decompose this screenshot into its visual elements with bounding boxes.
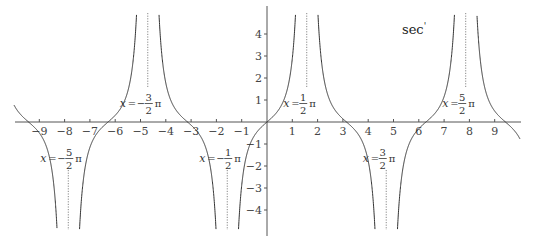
label-pi: π [234, 153, 241, 164]
curve-segment [14, 105, 57, 228]
label-pi: π [155, 98, 162, 109]
label-denominator: 2 [300, 105, 306, 116]
asymptote-label: x=12π [283, 92, 316, 116]
label-denominator: 2 [66, 160, 72, 171]
x-tick-label: 2 [314, 125, 321, 138]
x-tick-label: −6 [107, 125, 123, 138]
label-lhs: x [40, 152, 47, 165]
x-tick-label: −5 [132, 125, 148, 138]
x-tick-label: 7 [441, 125, 448, 138]
label-numerator: 5 [459, 92, 465, 103]
label-lhs: x [120, 97, 127, 110]
sec-derivative-chart: −9−8−7−6−5−4−3−2−1123456789−4−3−2−11234 … [0, 0, 534, 240]
label-pi: π [75, 153, 82, 164]
label-equals: = [128, 98, 136, 109]
label-numerator: 3 [146, 92, 152, 103]
label-equals: = [450, 98, 458, 109]
x-tick-label: 5 [390, 125, 397, 138]
x-tick-label: 3 [339, 125, 346, 138]
x-tick-label: −4 [158, 125, 174, 138]
label-equals: = [207, 153, 215, 164]
label-denominator: 2 [146, 105, 152, 116]
y-tick-label: 2 [255, 72, 262, 85]
label-pi: π [389, 153, 396, 164]
x-tick-label: 9 [491, 125, 498, 138]
chart-title: sec' [402, 21, 426, 37]
label-denominator: 2 [459, 105, 465, 116]
asymptote-label: x=−12π [199, 147, 241, 171]
label-sign: − [137, 98, 145, 109]
x-tick-label: 1 [289, 125, 296, 138]
label-lhs: x [199, 152, 206, 165]
label-sign: − [216, 153, 224, 164]
label-denominator: 2 [225, 160, 231, 171]
x-tick-label: 8 [466, 125, 473, 138]
y-tick-label: 1 [255, 94, 262, 107]
label-equals: = [371, 153, 379, 164]
asymptote-label: x=−52π [40, 147, 82, 171]
asymptote-label: x=52π [442, 92, 475, 116]
label-sign: − [57, 153, 65, 164]
y-tick-label: 4 [255, 28, 262, 41]
y-tick-label: −2 [246, 160, 262, 173]
x-tick-label: 4 [365, 125, 372, 138]
y-tick-label: 3 [255, 50, 262, 63]
label-lhs: x [363, 152, 370, 165]
x-tick-label: −8 [56, 125, 72, 138]
label-numerator: 1 [225, 147, 231, 158]
label-denominator: 2 [380, 160, 386, 171]
label-lhs: x [442, 97, 449, 110]
y-tick-label: −3 [246, 182, 262, 195]
label-equals: = [48, 153, 56, 164]
label-numerator: 3 [380, 147, 386, 158]
label-numerator: 5 [66, 147, 72, 158]
label-pi: π [468, 98, 475, 109]
y-tick-label: −4 [246, 204, 262, 217]
label-numerator: 1 [300, 92, 306, 103]
label-pi: π [309, 98, 316, 109]
asymptote-label: x=32π [363, 147, 396, 171]
x-tick-label: −1 [234, 125, 250, 138]
curve-segment [477, 16, 520, 139]
label-equals: = [291, 98, 299, 109]
x-tick-label: −2 [208, 125, 224, 138]
label-lhs: x [283, 97, 290, 110]
